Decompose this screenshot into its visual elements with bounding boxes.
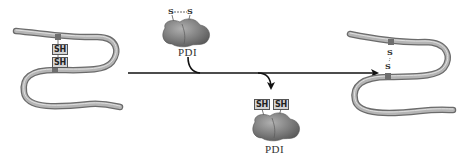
cysteine-dot [388, 39, 394, 45]
pdi-protein-blob [253, 113, 300, 141]
sulfur-label: S [385, 61, 391, 71]
pdi-label-top: PDI [178, 46, 197, 58]
sulfur-label: S [387, 47, 393, 57]
sulfur-label: S [187, 6, 193, 16]
cysteine-dot [385, 73, 391, 79]
pdi-output-arrow [258, 73, 271, 88]
pdi-label-bottom: PDI [265, 143, 284, 155]
sh-group-label: SH [52, 44, 68, 55]
pdi-input-curve [188, 57, 200, 73]
reactant-protein [16, 30, 120, 107]
sh-group-label: SH [52, 57, 68, 68]
pdi-oxidized [163, 12, 210, 47]
pdi-reduced [253, 109, 300, 141]
sh-group-label: SH [273, 99, 289, 110]
cysteine-dot [55, 34, 61, 40]
sulfur-label: S [168, 6, 174, 16]
diagram-canvas [0, 0, 467, 156]
pdi-protein-blob [163, 19, 210, 47]
sh-group-label: SH [254, 99, 270, 110]
